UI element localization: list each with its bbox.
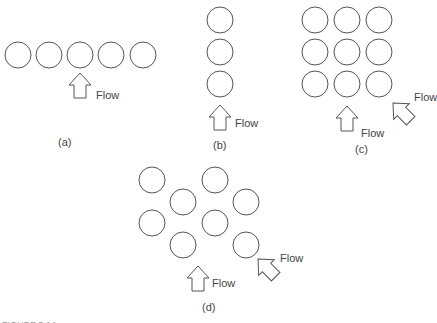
flow-arrow-diagonal-icon — [250, 251, 283, 284]
tube-bank-figure: Flow (a) Flow (b) Flow Flow (c) — [0, 0, 437, 323]
tube — [202, 210, 228, 236]
tube — [233, 232, 259, 258]
tube — [207, 7, 233, 33]
panel-a: Flow (a) — [5, 42, 156, 148]
panel-b: Flow (b) — [207, 7, 258, 151]
tube — [139, 167, 165, 193]
flow-arrow-up-icon — [187, 266, 209, 291]
flow-label: Flow — [96, 89, 119, 101]
panel-c: Flow Flow (c) — [302, 7, 437, 155]
tube — [5, 42, 31, 68]
panel-caption-c: (c) — [355, 143, 368, 155]
tube — [170, 189, 196, 215]
panel-caption-d: (d) — [202, 301, 215, 313]
tube — [302, 7, 328, 33]
flow-label: Flow — [212, 277, 235, 289]
tube — [366, 71, 392, 97]
tube — [207, 71, 233, 97]
tube — [334, 7, 360, 33]
panel-caption-a: (a) — [58, 136, 71, 148]
tube — [334, 39, 360, 65]
tube — [366, 7, 392, 33]
panel-caption-b: (b) — [213, 139, 226, 151]
tube — [98, 42, 124, 68]
flow-arrow-up-icon — [209, 105, 231, 130]
flow-arrow-up-icon — [69, 73, 91, 98]
tube — [302, 39, 328, 65]
flow-label: Flow — [414, 91, 437, 103]
flow-label: Flow — [280, 252, 303, 264]
panel-d: Flow Flow (d) — [139, 167, 303, 313]
flow-label: Flow — [235, 117, 258, 129]
tube — [302, 71, 328, 97]
tube — [207, 39, 233, 65]
tube — [366, 39, 392, 65]
tube — [139, 210, 165, 236]
tube — [170, 232, 196, 258]
tube — [67, 42, 93, 68]
flow-arrow-up-icon — [336, 106, 358, 131]
tube — [334, 71, 360, 97]
tube — [36, 42, 62, 68]
tube — [202, 167, 228, 193]
tube — [233, 189, 259, 215]
tube — [130, 42, 156, 68]
flow-label: Flow — [361, 127, 384, 139]
